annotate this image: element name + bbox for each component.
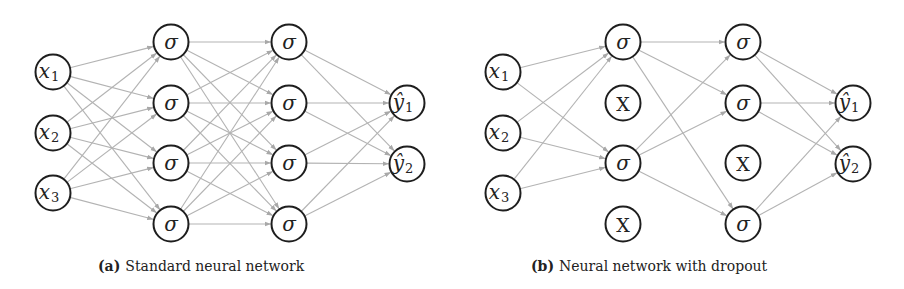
hidden-2-node-1: σ — [726, 25, 761, 60]
connection-edge — [67, 114, 156, 182]
input-node-2: x2 — [486, 116, 521, 151]
node-label: σ — [164, 151, 179, 175]
neural-network-figure: x1x2x3σσσσσσσσŷ1ŷ2 x1x2x3σXσXσσXσŷ1ŷ2 — [0, 0, 904, 289]
caption-dropout-network: (b)Neural network with dropout — [531, 258, 767, 274]
hidden-2-node-3: σ — [272, 146, 307, 181]
connection-edge — [305, 50, 391, 95]
node-label: σ — [164, 212, 179, 236]
hidden-1-node-2-dropped: X — [606, 86, 641, 121]
connection-edge — [520, 168, 605, 189]
edges-group — [64, 42, 394, 224]
node-label: σ — [282, 212, 297, 236]
output-node-1: ŷ1 — [390, 86, 425, 121]
node-label: σ — [282, 151, 297, 175]
input-node-1: x1 — [36, 55, 71, 90]
caption-standard-network: (a)Standard neural network — [98, 258, 304, 274]
connection-edge — [67, 53, 156, 122]
connection-edge — [64, 57, 160, 180]
connection-edge — [517, 53, 608, 122]
caption-tag: (b) — [531, 258, 554, 274]
output-node-1: ŷ1 — [836, 86, 871, 121]
hidden-2-node-1: σ — [272, 25, 307, 60]
hidden-2-node-4: σ — [272, 207, 307, 242]
hidden-1-node-4: σ — [154, 207, 189, 242]
caption-text: Standard neural network — [125, 258, 304, 274]
node-label: X — [736, 153, 750, 175]
input-node-3: x3 — [486, 176, 521, 211]
hidden-1-node-4-dropped: X — [606, 207, 641, 242]
panel-standard-network: x1x2x3σσσσσσσσŷ1ŷ2 — [36, 25, 425, 242]
caption-tag: (a) — [98, 258, 120, 274]
hidden-1-node-1: σ — [154, 25, 189, 60]
input-node-2: x2 — [36, 116, 71, 151]
hidden-2-node-4: σ — [726, 207, 761, 242]
hidden-2-node-2: σ — [272, 86, 307, 121]
connection-edge — [755, 117, 841, 211]
node-label: σ — [736, 91, 751, 115]
connection-edge — [70, 47, 153, 68]
hidden-1-node-3: σ — [154, 146, 189, 181]
node-label: σ — [282, 30, 297, 54]
caption-text: Neural network with dropout — [559, 258, 767, 274]
node-label: σ — [616, 151, 631, 175]
node-label: σ — [164, 91, 179, 115]
node-label: σ — [282, 91, 297, 115]
output-node-2: ŷ2 — [836, 147, 871, 182]
connection-edge — [514, 57, 612, 180]
connection-edge — [635, 55, 730, 151]
panel-dropout-network: x1x2x3σXσXσσXσŷ1ŷ2 — [486, 25, 871, 242]
node-label: σ — [736, 212, 751, 236]
hidden-1-node-3: σ — [606, 146, 641, 181]
output-node-2: ŷ2 — [390, 147, 425, 182]
node-label: σ — [616, 30, 631, 54]
node-label: σ — [164, 30, 179, 54]
hidden-2-node-3-dropped: X — [726, 146, 761, 181]
node-label: X — [616, 214, 630, 236]
hidden-1-node-2: σ — [154, 86, 189, 121]
nodes-group: x1x2x3σXσXσσXσŷ1ŷ2 — [486, 25, 871, 242]
hidden-2-node-2: σ — [726, 86, 761, 121]
edges-group — [514, 42, 841, 216]
node-label: σ — [736, 30, 751, 54]
input-node-1: x1 — [486, 55, 521, 90]
connection-edge — [639, 171, 727, 216]
input-node-3: x3 — [36, 176, 71, 211]
hidden-1-node-1: σ — [606, 25, 641, 60]
node-label: X — [616, 93, 630, 115]
